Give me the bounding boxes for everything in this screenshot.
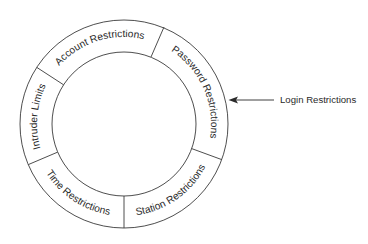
- divider-time-intruder: [28, 152, 57, 165]
- login-restrictions-callout: Login Restrictions: [229, 94, 357, 105]
- inner-ring: [52, 52, 196, 196]
- divider-account-password: [151, 27, 164, 57]
- segment-station-restrictions: Station Restrictions: [135, 162, 208, 217]
- ring: [20, 20, 228, 228]
- divider-password-station: [192, 149, 222, 160]
- segment-account-restrictions: Account Restrictions: [53, 28, 146, 67]
- divider-intruder-account: [37, 67, 64, 84]
- callout-label: Login Restrictions: [280, 94, 356, 105]
- login-restrictions-diagram: Account Restrictions Password Restrictio…: [0, 0, 368, 244]
- segment-password-restrictions: Password Restrictions: [170, 43, 220, 139]
- segment-intruder-limits: Intruder Limits: [28, 82, 48, 151]
- segment-labels: Account Restrictions Password Restrictio…: [28, 28, 220, 217]
